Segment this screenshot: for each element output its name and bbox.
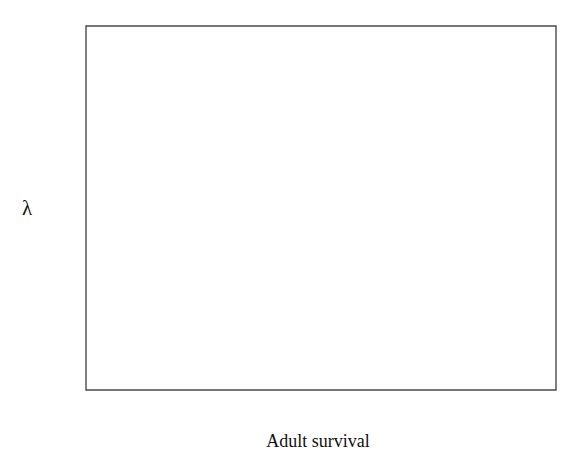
plot-frame xyxy=(86,26,556,390)
y-axis-title: λ xyxy=(22,196,33,220)
axes-group xyxy=(86,26,556,390)
chart-figure: Adult survival λ xyxy=(0,0,583,464)
x-axis-title: Adult survival xyxy=(266,431,370,451)
chart-canvas: Adult survival λ xyxy=(0,0,583,464)
